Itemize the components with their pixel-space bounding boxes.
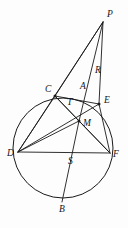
chord-C-D <box>18 96 55 152</box>
point-label-c: C <box>45 84 52 94</box>
vertex-dot-c <box>54 95 57 98</box>
vertex-dot-m <box>78 120 81 123</box>
segment-layer <box>18 22 110 202</box>
point-label-m: M <box>82 118 92 128</box>
point-label-p: P <box>106 9 113 19</box>
geometry-diagram: PRCAETMDSFB <box>0 0 128 228</box>
point-label-d: D <box>6 148 14 158</box>
point-label-s: S <box>68 156 73 166</box>
point-label-b: B <box>59 204 65 214</box>
circumscribed-circle-outline <box>13 98 113 198</box>
point-label-t: T <box>67 97 73 107</box>
circle-layer <box>13 98 113 198</box>
point-label-e: E <box>103 95 110 105</box>
point-label-f: F <box>112 149 119 159</box>
vertex-dot-e <box>98 103 101 106</box>
chord-D-E <box>18 104 99 152</box>
point-label-a: A <box>79 81 86 91</box>
segment-D-M <box>18 121 79 152</box>
chord-E-F <box>99 104 110 153</box>
point-label-r: R <box>94 65 101 75</box>
chord-D-F <box>18 152 110 153</box>
geometry-figure-canvas: PRCAETMDSFB <box>0 0 128 228</box>
